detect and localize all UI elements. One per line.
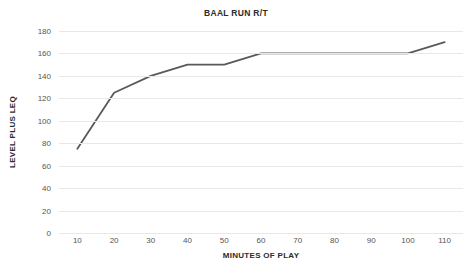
y-tick-label: 40 (42, 184, 51, 193)
series-polyline (77, 42, 444, 149)
x-tick-label: 100 (401, 236, 414, 245)
x-tick-label: 80 (330, 236, 339, 245)
line-series (59, 31, 463, 233)
gridline-y-140 (59, 76, 463, 77)
y-tick-label: 0 (47, 229, 51, 238)
y-tick-label: 180 (38, 27, 51, 36)
x-tick-label: 70 (293, 236, 302, 245)
chart-title: BAAL RUN R/T (0, 8, 472, 18)
chart-container: BAAL RUN R/T LEVEL PLUS LEQ 020406080100… (0, 0, 472, 273)
x-axis-title: MINUTES OF PLAY (59, 251, 463, 260)
y-tick-label: 80 (42, 139, 51, 148)
y-tick-label: 100 (38, 116, 51, 125)
x-tick-label: 40 (183, 236, 192, 245)
plot-area (59, 31, 463, 233)
gridline-y-60 (59, 166, 463, 167)
y-tick-label: 140 (38, 71, 51, 80)
gridline-y-20 (59, 211, 463, 212)
gridline-y-100 (59, 121, 463, 122)
gridline-y-120 (59, 98, 463, 99)
y-tick-label: 60 (42, 161, 51, 170)
gridline-y-40 (59, 188, 463, 189)
y-axis-tick-labels: 020406080100120140160180 (0, 31, 55, 233)
x-tick-label: 10 (73, 236, 82, 245)
x-tick-label: 90 (367, 236, 376, 245)
x-tick-label: 60 (257, 236, 266, 245)
x-axis-tick-labels: 102030405060708090100110 (59, 236, 463, 250)
y-tick-label: 20 (42, 206, 51, 215)
gridline-y-180 (59, 31, 463, 32)
gridline-y-0 (59, 233, 463, 234)
x-tick-label: 110 (438, 236, 451, 245)
y-tick-label: 160 (38, 49, 51, 58)
x-tick-label: 20 (110, 236, 119, 245)
gridline-y-160 (59, 53, 463, 54)
gridline-y-80 (59, 143, 463, 144)
x-tick-label: 30 (146, 236, 155, 245)
y-tick-label: 120 (38, 94, 51, 103)
x-tick-label: 50 (220, 236, 229, 245)
